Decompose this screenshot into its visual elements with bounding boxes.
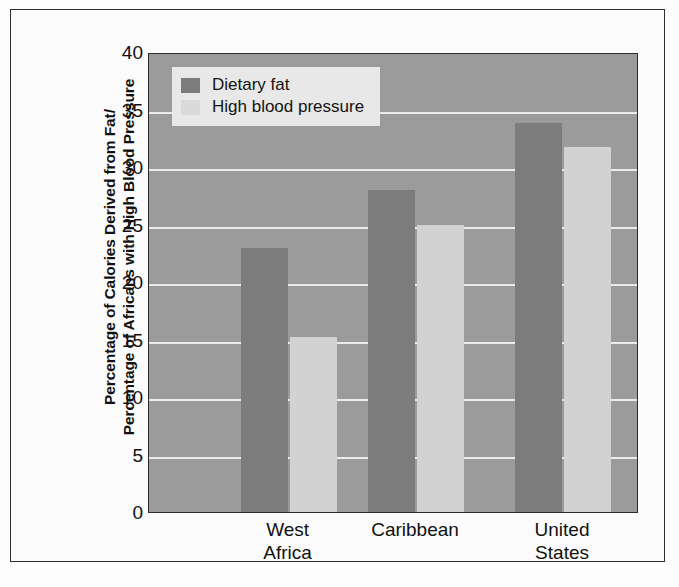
- y-axis-tick-10: 10: [99, 387, 143, 409]
- x-axis-tick-caribbean: Caribbean: [335, 518, 495, 541]
- x-axis-tick-labels: WestAfricaCaribbeanUnitedStates: [148, 518, 638, 574]
- y-axis-tick-30: 30: [99, 157, 143, 179]
- legend-label-dietary-fat: Dietary fat: [212, 75, 289, 95]
- legend: Dietary fat High blood pressure: [172, 67, 380, 126]
- y-axis-tick-5: 5: [99, 445, 143, 467]
- chart-figure: Percentage of Calories Derived from Fat/…: [0, 0, 679, 587]
- bar-united-states-high-blood-pressure: [564, 147, 611, 512]
- bar-caribbean-high-blood-pressure: [417, 225, 464, 513]
- plot-area: Dietary fat High blood pressure: [148, 53, 638, 513]
- legend-swatch-icon-dietary-fat: [181, 78, 200, 93]
- x-axis-tick-line: Caribbean: [335, 518, 495, 541]
- legend-item-high-blood-pressure: High blood pressure: [181, 96, 364, 118]
- y-axis-tick-15: 15: [99, 330, 143, 352]
- legend-swatch-icon-high-blood-pressure: [181, 100, 200, 115]
- y-axis-tick-0: 0: [99, 502, 143, 524]
- y-axis-tick-35: 35: [99, 100, 143, 122]
- bar-west-africa-high-blood-pressure: [290, 337, 337, 512]
- legend-item-dietary-fat: Dietary fat: [181, 74, 364, 96]
- y-axis-tick-labels: 0510152025303540: [99, 53, 143, 513]
- y-axis-tick-25: 25: [99, 215, 143, 237]
- y-axis-tick-40: 40: [99, 42, 143, 64]
- x-axis-tick-line: States: [482, 541, 642, 564]
- x-axis-tick-line: Africa: [208, 541, 368, 564]
- bar-united-states-dietary-fat: [515, 123, 562, 512]
- figure-frame: Percentage of Calories Derived from Fat/…: [10, 9, 665, 562]
- legend-label-high-blood-pressure: High blood pressure: [212, 97, 364, 117]
- x-axis-tick-line: United: [482, 518, 642, 541]
- bar-caribbean-dietary-fat: [368, 190, 415, 512]
- bar-west-africa-dietary-fat: [241, 248, 288, 513]
- y-axis-tick-20: 20: [99, 272, 143, 294]
- x-axis-tick-united-states: UnitedStates: [482, 518, 642, 564]
